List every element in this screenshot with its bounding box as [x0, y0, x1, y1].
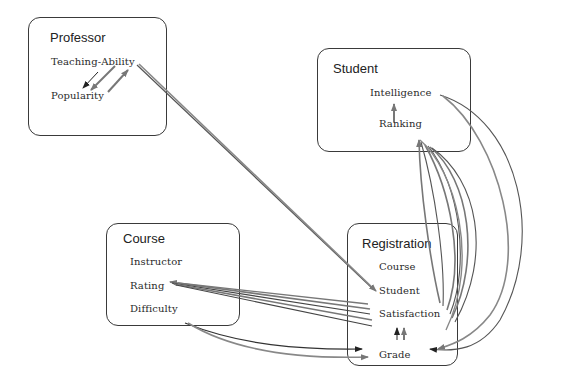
- edge-grade-to-satisfaction: [397, 328, 404, 340]
- edge-teaching-to-registration-student: [137, 64, 376, 291]
- dependency-edges: [0, 0, 564, 384]
- edge-teaching-to-popularity: [83, 66, 128, 92]
- diagram-canvas: Professor Teaching-Ability Popularity St…: [0, 0, 564, 384]
- edge-intelligence-to-grade: [430, 95, 522, 350]
- edge-satisfaction-to-rating: [170, 282, 372, 326]
- edge-difficulty-to-grade: [185, 323, 368, 357]
- edge-registration-to-ranking: [419, 140, 476, 330]
